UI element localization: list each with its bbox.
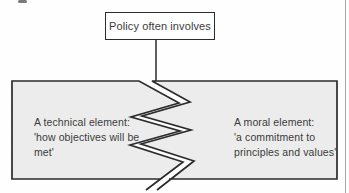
policy-box: Policy often involves — [105, 12, 215, 40]
moral-element-text: A moral element: 'a commitment to princi… — [234, 115, 336, 160]
text-line: A technical element: — [34, 115, 139, 130]
figure-canvas: Policy often involves A technical elemen… — [0, 0, 349, 193]
text-line: met' — [34, 145, 139, 160]
text-line: A moral element: — [234, 115, 336, 130]
text-line: 'how objectives will be — [34, 130, 139, 145]
technical-element-text: A technical element: 'how objectives wil… — [34, 115, 139, 160]
text-line: 'a commitment to — [234, 130, 336, 145]
text-line: principles and values' — [234, 145, 336, 160]
policy-box-label: Policy often involves — [109, 20, 211, 32]
